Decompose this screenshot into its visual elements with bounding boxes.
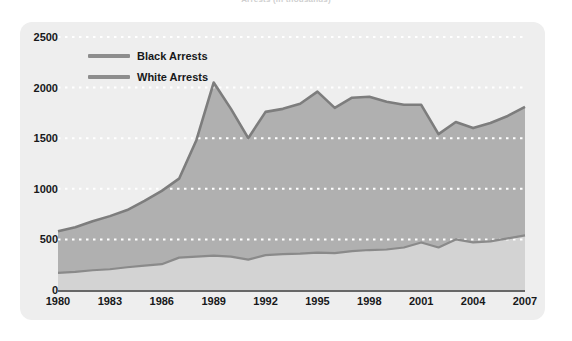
x-tick-label-2004: 2004 bbox=[451, 296, 495, 307]
legend-swatch-icon-black-arrests bbox=[88, 54, 130, 58]
arrests-area-chart-figure: Arrests (in thousands) 05001000150020002… bbox=[0, 0, 572, 341]
legend-swatch-icon-white-arrests bbox=[88, 75, 130, 79]
x-tick-label-1983: 1983 bbox=[88, 296, 132, 307]
x-tick-label-2007: 2007 bbox=[503, 296, 547, 307]
x-tick-label-1980: 1980 bbox=[36, 296, 80, 307]
clipped-chart-title: Arrests (in thousands) bbox=[0, 0, 572, 9]
chart-legend: Black Arrests White Arrests bbox=[88, 47, 288, 89]
x-tick-label-1995: 1995 bbox=[295, 296, 339, 307]
x-tick-label-1998: 1998 bbox=[347, 296, 391, 307]
legend-label-black-arrests: Black Arrests bbox=[137, 50, 208, 62]
chart-title-text: Arrests (in thousands) bbox=[0, 0, 572, 4]
legend-item-white-arrests: White Arrests bbox=[88, 68, 288, 85]
x-tick-label-1989: 1989 bbox=[192, 296, 236, 307]
x-tick-label-1992: 1992 bbox=[244, 296, 288, 307]
x-tick-label-2001: 2001 bbox=[399, 296, 443, 307]
x-tick-label-1986: 1986 bbox=[140, 296, 184, 307]
legend-item-black-arrests: Black Arrests bbox=[88, 47, 288, 64]
legend-label-white-arrests: White Arrests bbox=[137, 71, 208, 83]
